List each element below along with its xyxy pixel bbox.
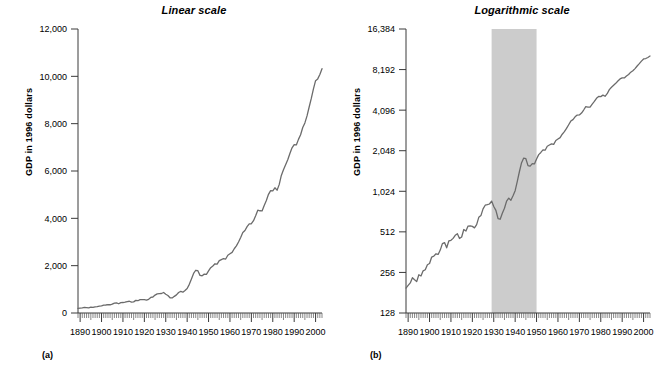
y-tick-label: 10,000 — [39, 72, 67, 82]
panel-logarithmic-plot: 1282565121,0242,0484,0968,19216,38418901… — [328, 0, 656, 366]
y-tick-label: 128 — [380, 308, 395, 318]
x-tick-label: 1980 — [263, 327, 283, 337]
x-tick-label: 1930 — [156, 327, 176, 337]
x-tick-label: 1970 — [569, 327, 589, 337]
panel-logarithmic-caption: (b) — [370, 350, 382, 360]
depression-war-band — [492, 29, 537, 313]
y-tick-label: 4,000 — [44, 214, 67, 224]
y-tick-label: 256 — [380, 268, 395, 278]
x-tick-label: 1910 — [113, 327, 133, 337]
x-tick-label: 1940 — [177, 327, 197, 337]
x-tick-label: 2000 — [306, 327, 326, 337]
x-tick-label: 1930 — [484, 327, 504, 337]
x-tick-label: 2000 — [634, 327, 654, 337]
x-tick-label: 1890 — [398, 327, 418, 337]
x-tick-label: 1960 — [220, 327, 240, 337]
x-tick-label: 1950 — [527, 327, 547, 337]
panel-linear-caption: (a) — [42, 350, 53, 360]
gdp-series-line — [78, 69, 322, 309]
x-tick-label: 1940 — [505, 327, 525, 337]
y-tick-label: 0 — [62, 308, 67, 318]
x-tick-label: 1920 — [462, 327, 482, 337]
panel-linear-plot: 02,0004,0006,0008,00010,00012,0001890190… — [0, 0, 328, 366]
x-tick-label: 1990 — [612, 327, 632, 337]
y-tick-label: 12,000 — [39, 24, 67, 34]
x-tick-label: 1920 — [134, 327, 154, 337]
y-tick-label: 1,024 — [372, 187, 395, 197]
panel-linear-scale: Linear scale GDP in 1996 dollars 02,0004… — [0, 0, 328, 366]
y-tick-label: 16,384 — [367, 24, 395, 34]
y-tick-label: 2,048 — [372, 146, 395, 156]
x-tick-label: 1990 — [284, 327, 304, 337]
y-tick-label: 4,096 — [372, 106, 395, 116]
y-tick-label: 6,000 — [44, 166, 67, 176]
x-tick-label: 1950 — [199, 327, 219, 337]
x-tick-label: 1960 — [548, 327, 568, 337]
x-tick-label: 1900 — [420, 327, 440, 337]
x-tick-label: 1890 — [70, 327, 90, 337]
x-tick-label: 1910 — [441, 327, 461, 337]
y-tick-label: 512 — [380, 227, 395, 237]
panel-logarithmic-scale: Logarithmic scale GDP in 1996 dollars 12… — [328, 0, 656, 366]
x-tick-label: 1970 — [241, 327, 261, 337]
gdp-figure: Linear scale GDP in 1996 dollars 02,0004… — [0, 0, 656, 366]
x-tick-label: 1980 — [591, 327, 611, 337]
y-tick-label: 2,000 — [44, 261, 67, 271]
y-tick-label: 8,192 — [372, 65, 395, 75]
x-tick-label: 1900 — [92, 327, 112, 337]
y-tick-label: 8,000 — [44, 119, 67, 129]
